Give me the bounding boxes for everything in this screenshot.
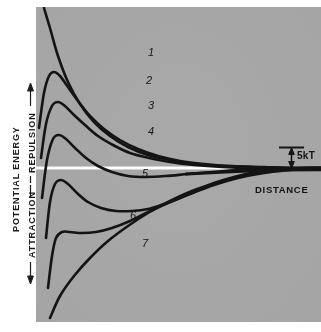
plot-panel: 1234567 5kT DISTANCE xyxy=(36,7,321,322)
energy-scale-value: 5kT xyxy=(297,150,315,161)
curve-3 xyxy=(41,102,321,168)
arrow-down-icon xyxy=(28,262,34,284)
curve-label-1: 1 xyxy=(148,46,154,58)
curve-5 xyxy=(46,168,321,238)
curve-label-2: 2 xyxy=(146,74,152,86)
x-axis-label: DISTANCE xyxy=(255,184,308,195)
curve-label-7: 7 xyxy=(142,237,148,249)
curve-label-4: 4 xyxy=(148,125,154,137)
curve-label-5: 5 xyxy=(142,167,148,179)
y-axis-arrows xyxy=(0,0,36,332)
potential-energy-curves-plot xyxy=(36,7,321,322)
curve-label-3: 3 xyxy=(148,99,154,111)
curve-1 xyxy=(44,8,321,168)
curve-label-6: 6 xyxy=(130,209,136,221)
curves-group xyxy=(39,8,321,318)
arrow-up-icon xyxy=(28,83,34,106)
figure-root: POTENTIAL ENERGY REPULSION ATTRACTION xyxy=(0,0,321,332)
